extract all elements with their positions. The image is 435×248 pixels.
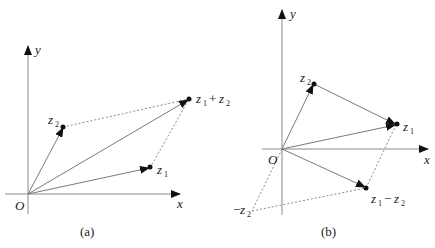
vector-z1-b (282, 125, 395, 149)
svg-text:z: z (299, 70, 305, 85)
dashed-origin-to-neg-z2 (252, 149, 282, 211)
dashed-z1-to-sum (150, 99, 189, 168)
label-sum-a: z 1 + z 2 (195, 91, 230, 108)
dashed-diff-to-z1 (366, 125, 396, 188)
dashed-neg-z2-to-diff (252, 188, 366, 211)
point-sum-a (187, 97, 192, 102)
caption-b: (b) (321, 224, 336, 239)
vector-z1-a (28, 168, 149, 194)
vector-diff-b (282, 149, 365, 187)
vector-z2-to-z1 (314, 84, 395, 124)
svg-text:z: z (156, 162, 162, 177)
x-label-a: x (176, 196, 183, 211)
label-neg-z2-b: − z 2 (233, 202, 251, 219)
point-z1-a (148, 165, 153, 170)
svg-text:2: 2 (307, 78, 311, 87)
svg-text:+: + (209, 91, 216, 106)
svg-text:1: 1 (378, 199, 382, 208)
vector-z2-b (282, 85, 313, 149)
origin-label-b: O (268, 152, 278, 167)
origin-label-a: O (15, 198, 25, 213)
caption-a: (a) (80, 224, 94, 239)
svg-text:z: z (218, 91, 224, 106)
y-label-a: y (33, 42, 41, 57)
svg-text:2: 2 (55, 120, 59, 129)
label-z1-b: z 1 (402, 119, 414, 136)
x-label-b: x (423, 152, 430, 167)
dashed-z2-to-sum (63, 99, 189, 127)
point-z2-b (312, 82, 317, 87)
svg-text:1: 1 (164, 170, 168, 179)
panel-a: y x O z 2 z 1 z 1 + z 2 (a) (5, 42, 230, 239)
svg-text:z: z (195, 91, 201, 106)
point-z2-a (61, 125, 66, 130)
svg-text:z: z (239, 202, 245, 217)
svg-text:1: 1 (203, 99, 207, 108)
point-diff-b (364, 186, 369, 191)
svg-text:2: 2 (401, 199, 405, 208)
svg-text:−: − (384, 191, 391, 206)
vector-diagram: y x O z 2 z 1 z 1 + z 2 (a) (0, 0, 435, 248)
svg-text:z: z (393, 191, 399, 206)
label-z2-b: z 2 (299, 70, 311, 87)
svg-text:2: 2 (247, 210, 251, 219)
svg-text:2: 2 (226, 99, 230, 108)
svg-text:1: 1 (410, 127, 414, 136)
label-z2-a: z 2 (47, 112, 59, 129)
panel-b: y x O z 2 z 1 z 1 − z 2 − z 2 (b) (233, 6, 430, 239)
svg-text:z: z (370, 191, 376, 206)
svg-text:z: z (47, 112, 53, 127)
point-z1-b (395, 122, 400, 127)
svg-text:z: z (402, 119, 408, 134)
label-z1-a: z 1 (156, 162, 168, 179)
label-diff-b: z 1 − z 2 (370, 191, 405, 208)
y-label-b: y (288, 6, 296, 21)
